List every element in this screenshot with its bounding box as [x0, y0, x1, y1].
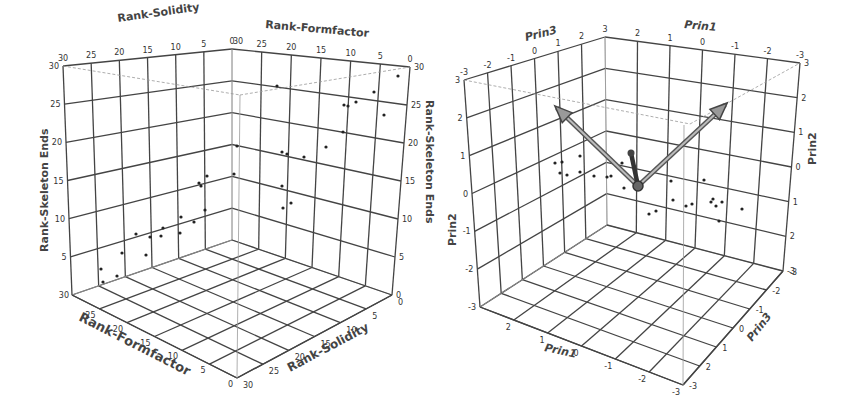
right-z-tick: 1	[798, 128, 803, 137]
right-z-tick: 0	[796, 163, 801, 172]
data-point	[134, 232, 137, 235]
right-z-tick: 10	[402, 215, 412, 224]
data-point	[205, 174, 208, 177]
data-point	[148, 235, 151, 238]
data-point	[740, 207, 743, 210]
left-z-tick: 20	[52, 138, 62, 147]
top-formfactor-tick: 10	[346, 49, 356, 58]
floor-prin1-tick: 1	[540, 336, 545, 345]
floor-prin1-tick: -1	[604, 362, 612, 371]
top-diagonal	[63, 66, 240, 95]
right-z-tick: 15	[405, 177, 415, 186]
floor-prin3-tick: 2	[706, 363, 711, 372]
loading-vector-shaft	[557, 108, 638, 186]
top-prin1-tick: -2	[764, 47, 772, 56]
right-wall-vertical	[724, 54, 735, 255]
data-point	[289, 201, 292, 204]
top-solidity-tick: 10	[171, 43, 181, 52]
top-formfactor-tick: 30	[233, 37, 243, 46]
top-solidity-tick: 20	[114, 48, 124, 57]
data-point	[192, 220, 195, 223]
top-formfactor-tick: 15	[316, 46, 326, 55]
left-z-tick: 25	[50, 100, 60, 109]
front-vertical-guide	[683, 125, 684, 385]
data-point	[341, 130, 344, 133]
top-formfactor-tick: 0	[407, 55, 412, 64]
right-top-prin1-label: Prin1	[684, 18, 717, 34]
left-z-tick: -3	[468, 303, 476, 312]
data-point	[396, 74, 399, 77]
top-prin3-tick: 1	[555, 39, 560, 48]
floor-edge	[683, 271, 783, 385]
left-z-tick: 3	[455, 76, 460, 85]
data-point	[324, 145, 327, 148]
floor-prin1-tick: 2	[506, 323, 511, 332]
data-point	[690, 202, 693, 205]
floor-edge	[480, 307, 683, 385]
top-diagonal	[464, 80, 690, 124]
data-point	[558, 171, 561, 174]
left-z-tick: 1	[460, 152, 465, 161]
floor-prin3-tick: 0	[739, 325, 744, 334]
floor-line	[649, 263, 754, 372]
data-point	[280, 150, 283, 153]
floor-prin3-tick: -3	[689, 382, 697, 391]
left-z-tick: 2	[458, 114, 463, 123]
floor-prin3-tick: -2	[772, 287, 780, 296]
right-z-tick: 2	[790, 232, 795, 241]
left-z-tick: 30	[49, 62, 59, 71]
data-point	[203, 208, 206, 211]
data-point	[654, 209, 657, 212]
data-point	[565, 173, 568, 176]
floor-prin1-tick: -2	[638, 375, 646, 384]
data-point	[382, 113, 385, 116]
top-diagonal	[690, 63, 800, 124]
data-point	[372, 90, 375, 93]
figure-canvas: 3025201510503025201510500551010151520202…	[0, 0, 851, 412]
data-point	[717, 219, 720, 222]
left-z-tick: 30	[59, 291, 69, 300]
top-prin3-tick: 2	[579, 32, 584, 41]
floor-solidity-tick: 30	[243, 381, 253, 390]
floor-line	[565, 252, 750, 309]
data-point	[159, 234, 162, 237]
data-point	[592, 174, 595, 177]
data-point	[647, 212, 650, 215]
floor-solidity-tick: 5	[372, 312, 377, 321]
left-top-formfactor-label: Rank-Formfactor	[265, 18, 370, 40]
top-prin1-tick: -1	[731, 42, 739, 51]
data-point	[622, 186, 625, 189]
right-z-tick: 1	[793, 198, 798, 207]
data-point	[702, 178, 705, 181]
top-prin3-tick: 3	[602, 25, 607, 34]
floor-prin3-tick: -3	[789, 268, 797, 277]
data-point	[669, 179, 672, 182]
top-prin1-tick: 0	[700, 38, 705, 47]
right-floor-prin3-label: Prin3	[744, 310, 774, 344]
data-point	[302, 155, 305, 158]
loading-vector-shaft	[638, 105, 725, 186]
data-point	[232, 172, 235, 175]
top-prin3-tick: -3	[460, 68, 468, 77]
data-point	[285, 152, 288, 155]
left-wall-vertical	[204, 52, 206, 249]
data-point	[714, 204, 717, 207]
left-z-tick: 10	[55, 215, 65, 224]
data-point	[235, 144, 238, 147]
left-z-tick: -2	[465, 265, 473, 274]
left-z-tick: 15	[53, 177, 63, 186]
data-point	[115, 274, 118, 277]
left-z-tick: 5	[61, 253, 66, 262]
data-point	[120, 251, 123, 254]
data-point	[179, 215, 182, 218]
right-z-tick: 20	[408, 139, 418, 148]
left-top-solidity-label: Rank-Solidity	[117, 1, 201, 25]
top-formfactor-tick: 20	[286, 43, 296, 52]
data-point	[197, 181, 200, 184]
data-point	[280, 184, 283, 187]
data-point	[578, 154, 581, 157]
top-prin1-tick: 2	[635, 29, 640, 38]
floor-solidity-tick: 25	[269, 367, 279, 376]
data-point	[605, 175, 608, 178]
right-z-tick: 2	[801, 94, 806, 103]
